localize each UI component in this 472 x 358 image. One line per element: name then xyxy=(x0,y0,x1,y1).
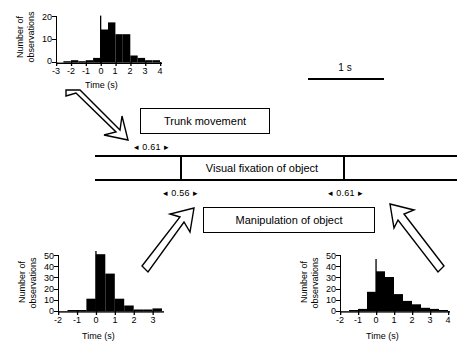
fixation-bar-divider-right xyxy=(343,155,345,181)
y-axis-title-line1: Number of xyxy=(299,252,309,312)
bottom-right-histogram: Number of observations 50 40 30 20 10 0 xyxy=(288,246,472,358)
br-x-tick-4: 4 xyxy=(438,316,458,325)
top-y-tick-20: 20 xyxy=(36,13,52,22)
visual-fixation-bar[interactable]: Visual fixation of object xyxy=(95,155,457,181)
br-x-tick-0: 0 xyxy=(366,316,386,325)
bottom-left-y-axis-title: Number of observations xyxy=(8,252,32,314)
arrow-right-glyph: ▸ xyxy=(193,188,198,198)
y-axis-title-line2: observations xyxy=(26,6,36,68)
duration-trunk-to-fixation: ◂ 0.61 ▸ xyxy=(134,142,254,152)
bl-x-tick-1: 1 xyxy=(105,316,125,325)
scale-bar-line xyxy=(308,78,384,80)
bottom-left-histogram: Number of observations 50 40 30 20 10 0 xyxy=(0,246,185,358)
br-y-tick-40: 40 xyxy=(320,263,336,272)
bl-y-tick-0: 0 xyxy=(38,307,54,316)
arrow-left-glyph: ◂ xyxy=(328,188,333,198)
manipulation-of-object-box[interactable]: Manipulation of object xyxy=(203,207,375,233)
y-axis-title-line1: Number of xyxy=(17,252,27,312)
duration-trunk-to-fixation-value: 0.61 xyxy=(142,142,161,152)
arrow-right-glyph: ▸ xyxy=(164,142,169,152)
duration-fixation-end: ◂ 0.61 ▸ xyxy=(328,188,448,198)
bl-y-tick-40: 40 xyxy=(38,263,54,272)
top-histogram: Number of observations 20 10 0 xyxy=(0,4,185,94)
bl-x-tick-3: 3 xyxy=(143,316,163,325)
top-histogram-bars xyxy=(56,12,166,64)
bl-x-tick--2: -2 xyxy=(48,316,68,325)
top-y-tick-10: 10 xyxy=(36,35,52,44)
br-x-tick-2: 2 xyxy=(402,316,422,325)
figure-canvas: Number of observations 20 10 0 xyxy=(0,0,472,358)
br-y-tick-30: 30 xyxy=(320,274,336,283)
arrow-down-right-icon xyxy=(64,88,136,144)
br-y-tick-10: 10 xyxy=(320,296,336,305)
scale-bar-group: 1 s xyxy=(300,62,390,88)
duration-fixation-to-manipulation: ◂ 0.56 ▸ xyxy=(163,188,283,198)
y-axis-title-line2: observations xyxy=(310,250,320,316)
duration-fixation-to-manipulation-value: 0.56 xyxy=(171,188,190,198)
bl-y-tick-30: 30 xyxy=(38,274,54,283)
br-y-tick-50: 50 xyxy=(320,252,336,261)
bl-x-tick--1: -1 xyxy=(67,316,87,325)
bl-y-tick-10: 10 xyxy=(38,296,54,305)
arrow-right-glyph: ▸ xyxy=(358,188,363,198)
scale-bar-label: 1 s xyxy=(300,62,390,73)
bl-y-tick-50: 50 xyxy=(38,252,54,261)
top-y-tick-0: 0 xyxy=(36,57,52,66)
bl-y-tick-20: 20 xyxy=(38,285,54,294)
br-x-tick--2: -2 xyxy=(330,316,350,325)
bl-x-axis-title: Time (s) xyxy=(82,331,142,341)
br-x-tick-1: 1 xyxy=(384,316,404,325)
duration-fixation-end-value: 0.61 xyxy=(336,188,355,198)
br-x-tick-3: 3 xyxy=(420,316,440,325)
visual-fixation-label: Visual fixation of object xyxy=(181,155,343,181)
trunk-movement-box[interactable]: Trunk movement xyxy=(140,108,270,134)
y-axis-title-line2: observations xyxy=(28,250,38,316)
arrow-left-glyph: ◂ xyxy=(163,188,168,198)
br-y-tick-20: 20 xyxy=(320,285,336,294)
y-axis-title-line1: Number of xyxy=(15,8,25,66)
br-x-tick--1: -1 xyxy=(348,316,368,325)
top-x-tick-4: 4 xyxy=(150,67,170,76)
br-y-tick-0: 0 xyxy=(320,307,336,316)
bl-x-tick-0: 0 xyxy=(86,316,106,325)
bl-x-tick-2: 2 xyxy=(124,316,144,325)
bottom-right-histogram-bars xyxy=(340,251,454,313)
arrow-left-glyph: ◂ xyxy=(134,142,139,152)
top-histogram-y-axis-title: Number of observations xyxy=(6,10,28,68)
bottom-right-y-axis-title: Number of observations xyxy=(290,252,314,314)
bottom-left-histogram-bars xyxy=(58,251,168,313)
br-x-axis-title: Time (s) xyxy=(366,331,426,341)
